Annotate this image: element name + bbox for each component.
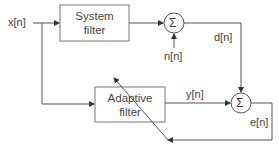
input-signal-label: x[n] — [8, 17, 26, 28]
adaptive-filter-label-line1: Adaptive — [95, 91, 165, 105]
error-signal-label: e[n] — [250, 117, 268, 128]
diagram-canvas — [0, 0, 279, 150]
summer-1-symbol: Σ — [169, 17, 176, 29]
system-filter-label-line1: System — [60, 9, 129, 23]
output-signal-label: y[n] — [186, 89, 204, 100]
adaptive-filter-label: Adaptive filter — [95, 91, 165, 119]
system-filter-label: System filter — [60, 9, 129, 37]
desired-signal-label: d[n] — [214, 32, 232, 43]
summer-2-symbol: Σ — [236, 97, 243, 109]
adaptive-filter-label-line2: filter — [95, 105, 165, 119]
system-filter-label-line2: filter — [60, 23, 129, 37]
noise-signal-label: n[n] — [164, 51, 182, 62]
